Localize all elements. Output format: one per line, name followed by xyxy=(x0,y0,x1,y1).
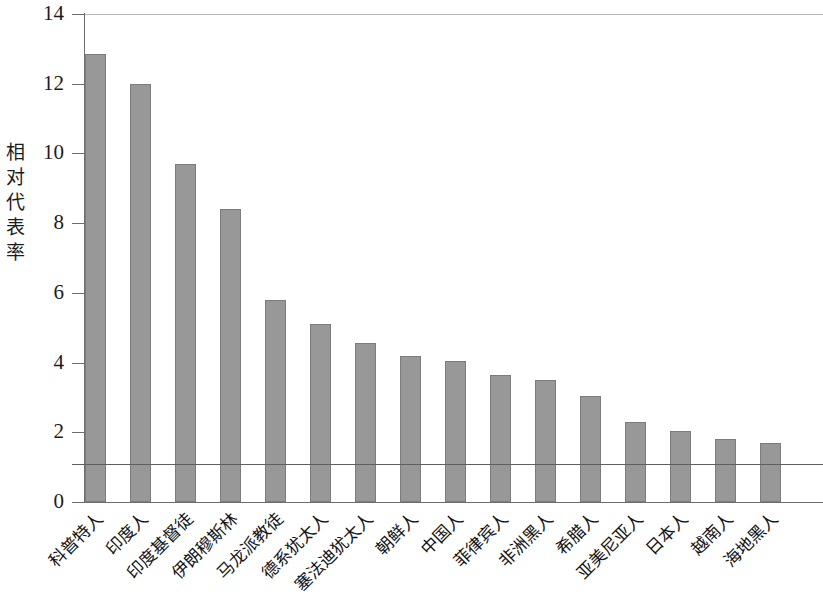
bar-column xyxy=(670,0,691,502)
bar xyxy=(580,396,601,502)
x-axis-labels: 科普特人印度人印度基督徒伊朗穆斯林马龙派教徒德系犹太人塞法迪犹太人朝鲜人中国人菲… xyxy=(0,502,823,614)
bar-column xyxy=(400,0,421,502)
x-axis-tick-label: 朝鲜人 xyxy=(372,510,420,558)
bar-column xyxy=(445,0,466,502)
bar-column xyxy=(310,0,331,502)
bars-layer xyxy=(0,0,823,502)
reference-line xyxy=(72,464,823,465)
bar xyxy=(535,380,556,502)
x-axis-tick-label: 日本人 xyxy=(642,510,690,558)
bar-chart: 相 对 代 表 率 02468101214 科普特人印度人印度基督徒伊朗穆斯林马… xyxy=(0,0,823,614)
bar-column xyxy=(265,0,286,502)
bar xyxy=(715,439,736,502)
bar xyxy=(670,431,691,502)
bar-column xyxy=(535,0,556,502)
bar xyxy=(355,343,376,502)
bar xyxy=(265,300,286,502)
bar-column xyxy=(625,0,646,502)
x-axis-tick-label-text: 朝鲜人 xyxy=(372,510,420,558)
bar xyxy=(760,443,781,502)
x-axis-tick-label-text: 日本人 xyxy=(642,510,690,558)
bar-column xyxy=(355,0,376,502)
x-axis-tick-label: 科普特人 xyxy=(45,510,105,570)
x-axis-tick-label-text: 科普特人 xyxy=(45,510,105,570)
bar-column xyxy=(715,0,736,502)
bar xyxy=(490,375,511,502)
bar-column xyxy=(130,0,151,502)
bar-column xyxy=(490,0,511,502)
bar xyxy=(445,361,466,502)
bar xyxy=(130,84,151,502)
bar xyxy=(625,422,646,502)
bar-column xyxy=(580,0,601,502)
bar xyxy=(220,209,241,502)
bar xyxy=(400,356,421,502)
bar-column xyxy=(220,0,241,502)
bar-column xyxy=(760,0,781,502)
bar-column xyxy=(85,0,106,502)
bar-column xyxy=(175,0,196,502)
bar xyxy=(85,54,106,502)
bar xyxy=(175,164,196,502)
bar xyxy=(310,324,331,502)
